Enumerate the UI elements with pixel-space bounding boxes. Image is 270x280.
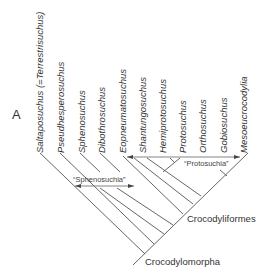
tree-branches	[40, 153, 248, 265]
branch-sphenosuchus	[80, 153, 100, 172]
branch-protosuchus	[170, 158, 174, 162]
taxon-shantungosuchus: Shantungosuchus	[137, 77, 148, 153]
branch-sphenosuchus-lower	[100, 188, 164, 234]
taxon-labels: Saltaposuchus (=Terrestrisuchus) Pseudhe…	[34, 12, 249, 153]
taxon-gobiosuchus: Gobiosuchus	[218, 97, 229, 153]
clade-crocodyliformes: Crocodyliformes	[187, 213, 256, 224]
branch-pseudhesperosuchus	[60, 153, 154, 244]
branch-dibothrosuchus	[100, 153, 120, 172]
branch-gobiosuchus	[220, 170, 227, 176]
branch-saltaposuchus	[40, 153, 145, 254]
sphenosuchia-bracket: “Sphenosuchia”	[73, 175, 134, 188]
taxon-hemiprotosuchus: Hemiprotosuchus	[157, 79, 168, 153]
main-stem	[133, 153, 248, 265]
taxon-orthosuchus: Orthosuchus	[197, 99, 208, 153]
branch-eopneumatosuchus	[123, 156, 183, 214]
clade-crocodylomorpha: Crocodylomorpha	[145, 256, 221, 267]
panel-letter: A	[12, 107, 21, 122]
taxon-protosuchus: Protosuchus	[177, 100, 188, 153]
cladogram: A Saltaposuchus (=Terrestrisuchus) Pseud…	[0, 0, 270, 280]
taxon-pseudhesperosuchus: Pseudhesperosuchus	[55, 61, 66, 153]
taxon-dibothrosuchus: Dibothrosuchus	[96, 87, 107, 153]
sphenosuchia-label: “Sphenosuchia”	[73, 175, 126, 184]
taxon-saltaposuchus: Saltaposuchus (=Terrestrisuchus)	[34, 12, 45, 153]
taxon-mesoeucrocodylia: Mesoeucrocodylia	[238, 76, 249, 153]
protosuchia-label: “Protosuchia”	[184, 159, 229, 168]
taxon-eopneumatosuchus: Eopneumatosuchus	[117, 69, 128, 153]
taxon-sphenosuchus: Sphenosuchus	[76, 90, 87, 153]
